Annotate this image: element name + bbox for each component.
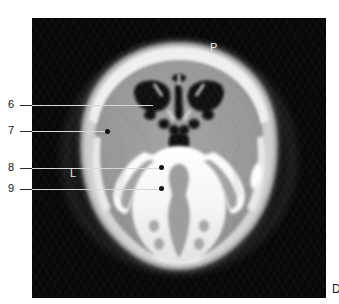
orientation-marker-posterior: P <box>210 42 218 53</box>
callout-leader-line-8-margin <box>20 168 32 169</box>
callout-label-9[interactable]: 9 <box>8 183 14 194</box>
callout-leader-line-6 <box>32 105 153 106</box>
orientation-marker-left: L <box>70 168 77 179</box>
callout-label-7[interactable]: 7 <box>8 125 14 136</box>
callout-leader-line-7 <box>32 131 108 132</box>
axial-head-slice-image <box>32 18 326 298</box>
callout-leader-line-9 <box>32 189 162 190</box>
corner-glyph: D <box>332 283 339 295</box>
callout-endpoint-dot-7 <box>105 129 110 134</box>
medical-image-figure: P A L R 6 7 8 9 D <box>0 0 339 304</box>
scan-viewport[interactable]: P A L R <box>32 18 326 298</box>
callout-leader-line-6-margin <box>20 105 32 106</box>
callout-endpoint-dot-8 <box>159 165 164 170</box>
callout-label-8[interactable]: 8 <box>8 162 14 173</box>
callout-leader-line-9-margin <box>20 189 32 190</box>
callout-leader-line-8 <box>32 168 162 169</box>
callout-leader-line-7-margin <box>20 131 32 132</box>
callout-endpoint-dot-9 <box>159 186 164 191</box>
callout-label-6[interactable]: 6 <box>8 99 14 110</box>
